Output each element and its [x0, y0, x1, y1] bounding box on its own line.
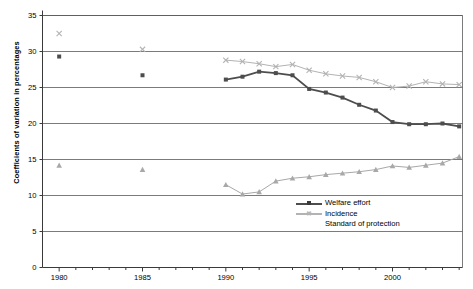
chart-plot-area	[0, 0, 473, 289]
legend-item-welfare-effort: Welfare effort	[296, 198, 400, 209]
data-point-marker	[140, 167, 146, 172]
y-tick-label: 25	[15, 83, 37, 92]
data-point-marker	[457, 124, 461, 128]
data-point-marker	[357, 103, 361, 107]
y-tick-label: 10	[15, 191, 37, 200]
data-point-marker	[241, 75, 245, 79]
chart-legend: Welfare effort ✖ Incidence Standard of p…	[296, 198, 400, 230]
y-tick-label: 35	[15, 11, 37, 20]
series-incidence	[57, 31, 462, 90]
data-point-marker	[141, 73, 145, 77]
legend-label-welfare-effort: Welfare effort	[325, 198, 370, 209]
legend-item-standard-of-protection: Standard of protection	[296, 219, 400, 230]
data-point-marker	[274, 71, 278, 75]
data-point-marker	[324, 91, 328, 95]
legend-item-incidence: ✖ Incidence	[296, 209, 400, 220]
y-tick-label: 15	[15, 155, 37, 164]
data-point-marker	[407, 122, 411, 126]
series-standard-of-protection	[56, 154, 462, 197]
data-point-marker	[374, 109, 378, 113]
x-tick-label: 1990	[206, 273, 246, 282]
y-tick-label: 0	[15, 263, 37, 272]
data-point-marker	[257, 70, 261, 74]
chart-container: Coefficients of variation in percentages…	[0, 0, 473, 289]
data-point-marker	[291, 73, 295, 77]
data-point-marker	[341, 96, 345, 100]
data-point-marker	[391, 120, 395, 124]
legend-key-welfare-effort	[296, 198, 322, 208]
y-axis-title: Coefficients of variation in percentages	[12, 13, 21, 213]
series-welfare-effort	[57, 55, 461, 129]
data-point-marker	[56, 162, 62, 167]
y-tick-label: 5	[15, 227, 37, 236]
data-point-marker	[224, 78, 228, 82]
y-tick-label: 20	[15, 119, 37, 128]
data-point-marker	[456, 154, 462, 159]
x-tick-label: 2000	[373, 273, 413, 282]
x-tick-label: 1995	[289, 273, 329, 282]
data-point-marker	[424, 122, 428, 126]
legend-label-standard-of-protection: Standard of protection	[325, 219, 400, 230]
data-point-marker	[57, 55, 61, 59]
cross-marker-icon: ✖	[306, 211, 312, 217]
legend-key-incidence: ✖	[296, 209, 322, 219]
legend-key-standard-of-protection	[296, 219, 322, 229]
legend-label-incidence: Incidence	[325, 209, 358, 220]
x-tick-label: 1980	[39, 273, 79, 282]
data-point-marker	[223, 182, 229, 187]
data-point-marker	[307, 87, 311, 91]
square-marker-icon	[307, 201, 311, 205]
x-tick-label: 1985	[123, 273, 163, 282]
y-tick-label: 30	[15, 47, 37, 56]
data-point-marker	[441, 122, 445, 126]
